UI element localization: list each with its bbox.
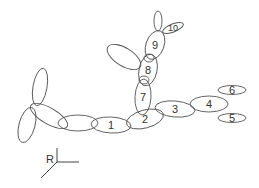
ellipse-label-e2: 2: [142, 113, 148, 125]
ellipse-label-e3: 3: [172, 103, 178, 115]
ellipse-label-e10: 10: [168, 23, 178, 33]
ellipse-label-e6: 6: [229, 84, 235, 96]
ellipse-left-branch: [27, 99, 71, 134]
axis-label-r: R: [46, 153, 54, 165]
ellipsoid-chain-diagram: 12345678910 R: [0, 0, 259, 188]
ellipse-group: [15, 11, 246, 144]
ellipse-junction-8-9: [144, 54, 154, 62]
ellipse-label-e5: 5: [229, 112, 235, 124]
ellipse-top-small: [154, 11, 162, 31]
ellipse-label-e8: 8: [145, 64, 151, 76]
ellipse-label-e1: 1: [108, 119, 114, 131]
ellipse-left-bottom: [15, 106, 40, 145]
ellipse-label-e7: 7: [140, 91, 146, 103]
label-group: 12345678910: [108, 23, 235, 131]
ellipse-left-top: [30, 67, 50, 107]
coordinate-axes: R: [41, 148, 79, 178]
ellipse-label-e4: 4: [206, 98, 212, 110]
ellipse-unlabeled-chain: [58, 115, 98, 131]
diagram-canvas: 12345678910 R: [0, 0, 259, 188]
ellipse-label-e9: 9: [152, 39, 158, 51]
